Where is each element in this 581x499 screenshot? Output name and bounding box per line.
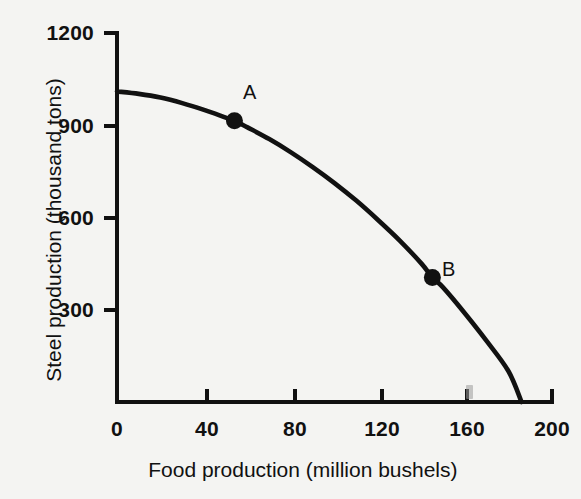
x-tick-label-200: 200: [534, 417, 570, 441]
data-point-a-label: A: [243, 81, 256, 104]
y-axis-title: Steel production (thousand tons): [42, 70, 66, 390]
x-tick-label-120: 120: [364, 417, 400, 441]
x-tick-label-40: 40: [195, 417, 219, 441]
chart-figure: 1200 900 600 300 0 40 80 120 160 200 A B…: [0, 0, 581, 499]
ppf-curve: [117, 91, 522, 402]
paper-smudge-artifact: [466, 385, 473, 399]
x-tick-label-160: 160: [449, 417, 485, 441]
x-tick-label-80: 80: [283, 417, 307, 441]
data-point-a-marker: [226, 112, 243, 129]
x-axis-title: Food production (million bushels): [148, 458, 457, 482]
y-tick-label-1200: 1200: [22, 21, 94, 45]
data-point-b-marker: [424, 269, 441, 286]
x-tick-label-0: 0: [111, 417, 123, 441]
data-point-b-label: B: [442, 258, 455, 281]
